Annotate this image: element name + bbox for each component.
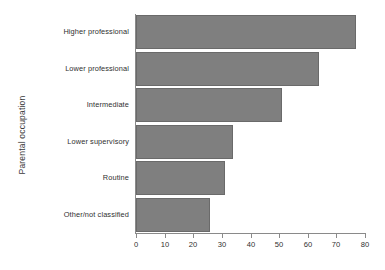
bar xyxy=(136,52,319,86)
category-label: Routine xyxy=(0,173,129,182)
x-axis-tick-label: 50 xyxy=(267,240,291,249)
x-axis-tick xyxy=(165,234,166,238)
bar xyxy=(136,125,233,159)
x-axis-tick-label: 10 xyxy=(153,240,177,249)
bar xyxy=(136,15,356,49)
category-label: Intermediate xyxy=(0,100,129,109)
category-label: Lower professional xyxy=(0,64,129,73)
x-axis-tick-label: 40 xyxy=(239,240,263,249)
bar xyxy=(136,198,210,232)
x-axis-tick-label: 0 xyxy=(124,240,148,249)
category-label: Lower supervisory xyxy=(0,137,129,146)
bar xyxy=(136,161,225,195)
x-axis-tick xyxy=(279,234,280,238)
x-axis-tick xyxy=(136,234,137,238)
x-axis-tick-label: 60 xyxy=(296,240,320,249)
x-axis-tick xyxy=(365,234,366,238)
bar-chart-figure: Parental occupation Higher professionalL… xyxy=(0,0,385,270)
x-axis-tick xyxy=(336,234,337,238)
y-axis-category-labels: Higher professionalLower professionalInt… xyxy=(0,0,129,270)
x-axis-tick xyxy=(308,234,309,238)
x-axis-tick xyxy=(222,234,223,238)
x-axis-tick xyxy=(193,234,194,238)
x-axis-tick xyxy=(251,234,252,238)
x-axis-tick-label: 30 xyxy=(210,240,234,249)
x-axis-tick-label: 20 xyxy=(181,240,205,249)
category-label: Higher professional xyxy=(0,27,129,36)
x-axis-tick-label: 80 xyxy=(353,240,377,249)
category-label: Other/not classified xyxy=(0,210,129,219)
plot-area xyxy=(136,14,365,233)
x-axis-tick-label: 70 xyxy=(324,240,348,249)
bar xyxy=(136,88,282,122)
